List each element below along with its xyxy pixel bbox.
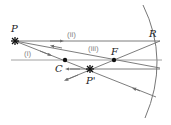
label-p-prime: P' <box>85 75 95 86</box>
ray-ii-reflected-arrow <box>66 75 78 80</box>
image-star-icon <box>86 65 94 73</box>
center-of-curvature-point <box>63 58 67 62</box>
focus-point <box>112 58 116 62</box>
label-ray-ii: (ii) <box>67 30 76 39</box>
ray-i-return-arrow <box>134 89 140 92</box>
object-star-icon <box>11 37 19 45</box>
concave-mirror <box>143 5 157 118</box>
label-p: P <box>10 23 18 34</box>
label-r: R <box>148 28 157 39</box>
ray-iii-back-arrow <box>52 46 62 48</box>
label-ray-iii: (iii) <box>88 44 99 53</box>
label-f: F <box>110 46 119 57</box>
label-ray-i: (i) <box>24 49 31 58</box>
mirror-ray-diagram: P R F C P' (ii) (i) (iii) <box>0 0 171 125</box>
ray-i-arrow <box>40 51 50 55</box>
label-c: C <box>55 63 63 74</box>
